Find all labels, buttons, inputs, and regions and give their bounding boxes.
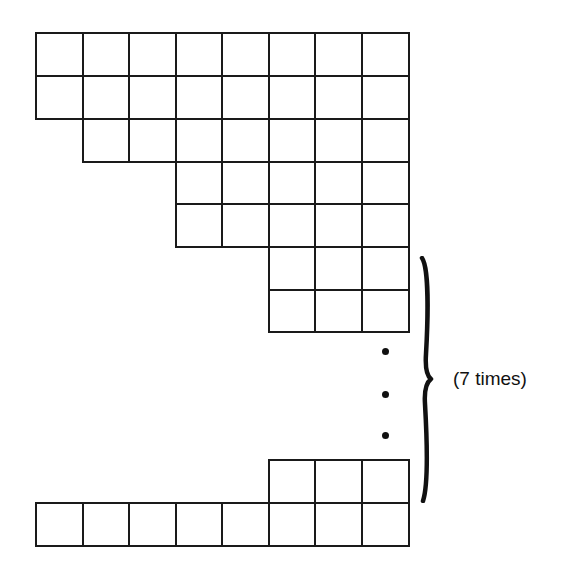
grid-square xyxy=(82,32,130,77)
grid-square xyxy=(361,246,410,291)
staircase-diagram: (7 times) xyxy=(0,0,568,566)
grid-square xyxy=(314,289,363,333)
grid-square xyxy=(361,118,410,163)
grid-square xyxy=(361,289,410,333)
grid-square xyxy=(268,459,316,504)
grid-square xyxy=(221,118,270,163)
grid-square xyxy=(268,32,316,77)
grid-square xyxy=(175,203,223,248)
grid-square xyxy=(128,502,177,547)
grid-square xyxy=(361,32,410,77)
grid-square xyxy=(314,203,363,248)
grid-square xyxy=(128,118,177,163)
ellipsis-dot xyxy=(382,348,389,355)
ellipsis-dot xyxy=(382,391,389,398)
grid-square xyxy=(268,161,316,205)
grid-square xyxy=(268,203,316,248)
grid-square xyxy=(128,75,177,120)
grid-square xyxy=(175,161,223,205)
grid-square xyxy=(314,32,363,77)
grid-square xyxy=(35,502,84,547)
repeat-count-label: (7 times) xyxy=(453,369,527,388)
grid-square xyxy=(268,118,316,163)
grid-square xyxy=(175,32,223,77)
grid-square xyxy=(128,32,177,77)
grid-square xyxy=(82,502,130,547)
grid-square xyxy=(175,118,223,163)
grid-square xyxy=(361,161,410,205)
grid-square xyxy=(175,75,223,120)
grid-square xyxy=(314,75,363,120)
ellipsis-dot xyxy=(382,432,389,439)
grid-square xyxy=(268,75,316,120)
grid-square xyxy=(268,502,316,547)
grid-square xyxy=(175,502,223,547)
right-brace-icon xyxy=(419,256,439,503)
grid-square xyxy=(268,289,316,333)
grid-square xyxy=(314,118,363,163)
grid-square xyxy=(221,502,270,547)
grid-square xyxy=(35,32,84,77)
grid-square xyxy=(314,459,363,504)
grid-square xyxy=(221,203,270,248)
grid-square xyxy=(361,502,410,547)
grid-square xyxy=(361,459,410,504)
grid-square xyxy=(314,502,363,547)
grid-square xyxy=(361,75,410,120)
grid-square xyxy=(314,161,363,205)
grid-square xyxy=(268,246,316,291)
grid-square xyxy=(361,203,410,248)
grid-square xyxy=(314,246,363,291)
grid-square xyxy=(221,32,270,77)
grid-square xyxy=(35,75,84,120)
grid-square xyxy=(82,118,130,163)
grid-square xyxy=(221,75,270,120)
grid-square xyxy=(221,161,270,205)
grid-square xyxy=(82,75,130,120)
